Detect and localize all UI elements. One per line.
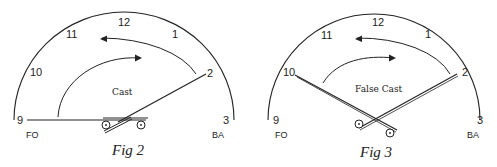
clock-number-3: 3 xyxy=(477,114,483,126)
clock-number-1: 1 xyxy=(172,28,178,40)
false-cast-label: False Cast xyxy=(355,84,403,94)
clock-number-10: 10 xyxy=(283,66,295,78)
forward-arrowhead-icon xyxy=(389,55,396,62)
figure-caption: Fig 2 xyxy=(111,142,145,158)
forward-arrowhead-icon xyxy=(135,55,142,62)
clock-number-2: 2 xyxy=(207,67,213,79)
rod-line-2 xyxy=(359,74,457,128)
back-label: BA xyxy=(467,130,479,140)
forward-label: FO xyxy=(275,130,288,140)
back-arrowhead-icon xyxy=(100,36,107,43)
clock-number-3: 3 xyxy=(223,114,229,126)
clock-number-11: 11 xyxy=(66,28,77,40)
forward-arrow-arc xyxy=(323,57,394,83)
back-arrow-arc xyxy=(102,38,196,74)
forward-label: FO xyxy=(26,130,39,140)
clock-number-12: 12 xyxy=(118,16,130,28)
clock-number-10: 10 xyxy=(30,66,42,78)
figure-3-false-cast: 12 11 1 10 2 9 3 FO BA False Cast Fig 3 xyxy=(247,0,497,167)
figure-2-cast: 12 11 1 10 2 9 3 FO BA Cast Fig 2 xyxy=(0,0,250,167)
clock-number-2: 2 xyxy=(462,66,468,78)
clock-number-12: 12 xyxy=(372,16,384,28)
rod-line-2 xyxy=(118,74,206,122)
back-arrowhead-icon xyxy=(355,36,362,43)
figure-caption: Fig 3 xyxy=(359,144,392,160)
cast-clock-diagram: 12 11 1 10 2 9 3 FO BA Cast Fig 2 xyxy=(0,0,250,167)
cast-label: Cast xyxy=(112,87,133,97)
clock-arc xyxy=(268,14,480,120)
clock-arc xyxy=(14,12,234,120)
back-label: BA xyxy=(212,130,224,140)
false-cast-clock-diagram: 12 11 1 10 2 9 3 FO BA False Cast Fig 3 xyxy=(247,0,497,167)
clock-number-1: 1 xyxy=(425,28,431,40)
back-arrow-arc xyxy=(357,38,450,74)
clock-number-9: 9 xyxy=(273,114,279,126)
clock-number-11: 11 xyxy=(321,29,332,41)
clock-number-9: 9 xyxy=(17,114,23,126)
